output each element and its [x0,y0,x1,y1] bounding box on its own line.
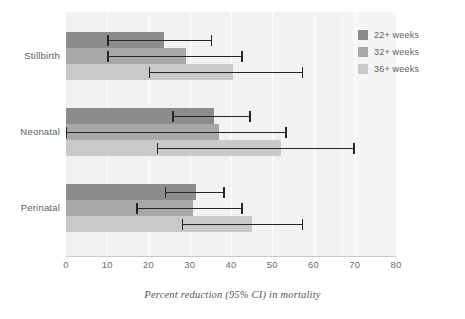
category-label-neonatal: Neonatal [0,126,60,137]
error-bar-cap-left [136,203,137,214]
legend: 22+ weeks32+ weeks36+ weeks [358,30,419,74]
error-bar-cap-left [172,111,173,122]
error-bar-cap-left [157,143,158,154]
x-tick-label-0: 0 [63,259,69,270]
x-tick-label-50: 50 [267,259,278,270]
x-tick-label-70: 70 [349,259,360,270]
error-bar-cap-right [302,67,303,78]
legend-item[interactable]: 36+ weeks [358,64,419,74]
error-bar-cap-right [211,35,212,46]
x-tick-label-10: 10 [102,259,113,270]
legend-swatch-icon [358,30,368,40]
error-bar-cap-right [241,51,242,62]
x-tick-label-80: 80 [390,259,401,270]
x-tick-label-40: 40 [225,259,236,270]
legend-label: 36+ weeks [374,64,419,74]
error-bar-cap-left [165,187,166,198]
error-bar-cap-right [353,143,354,154]
x-axis-title: Percent reduction (95% CI) in mortality [0,289,465,300]
error-bar-line [107,40,212,41]
error-bar [149,67,304,78]
error-bar-line [172,116,250,117]
error-bar-line [157,148,355,149]
legend-item[interactable]: 22+ weeks [358,30,419,40]
bar-row [66,184,396,200]
error-bar-line [107,56,242,57]
error-bar-cap-left [107,51,108,62]
error-bar [107,51,242,62]
error-bar [136,203,242,214]
error-bar-cap-left [182,219,183,230]
error-bar [182,219,304,230]
error-bar-cap-right [285,127,286,138]
error-bar [165,187,225,198]
x-tick-label-60: 60 [308,259,319,270]
legend-label: 32+ weeks [374,47,419,57]
x-axis-line [66,256,396,257]
error-bar-cap-left [66,127,67,138]
error-bar-line [149,72,304,73]
error-bar [66,127,287,138]
x-tick-label-20: 20 [143,259,154,270]
error-bar-cap-right [249,111,250,122]
error-bar-cap-right [241,203,242,214]
legend-swatch-icon [358,64,368,74]
error-bar-cap-left [107,35,108,46]
category-label-perinatal: Perinatal [0,202,60,213]
legend-item[interactable]: 32+ weeks [358,47,419,57]
chart-figure: 01020304050607080 StillbirthNeonatalPeri… [0,0,465,319]
error-bar-line [165,192,225,193]
x-tick-label-30: 30 [184,259,195,270]
error-bar [157,143,355,154]
legend-label: 22+ weeks [374,30,419,40]
error-bar-cap-left [149,67,150,78]
legend-swatch-icon [358,47,368,57]
category-label-stillbirth: Stillbirth [0,50,60,61]
error-bar [107,35,212,46]
error-bar-line [182,224,304,225]
plot-area [66,12,396,256]
error-bar-line [66,132,287,133]
error-bar-cap-right [223,187,224,198]
error-bar [172,111,250,122]
error-bar-cap-right [302,219,303,230]
error-bar-line [136,208,242,209]
